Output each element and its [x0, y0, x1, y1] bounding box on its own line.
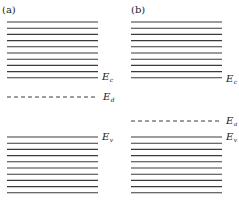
- panel-b-ec-label: Ec: [225, 73, 238, 85]
- panel-a-valence-band: [7, 137, 98, 193]
- panel-a-conduction-band: [7, 22, 98, 78]
- panel-a-ed-label: Ed: [102, 91, 115, 103]
- panel-a-donor: (a) Ec Ed Ev: [2, 4, 115, 193]
- panel-b-label: (b): [131, 4, 145, 15]
- panel-b-valence-band: [131, 137, 222, 193]
- panel-b-conduction-band: [131, 22, 222, 78]
- panel-a-ev-label: Ev: [101, 131, 114, 143]
- panel-b-ev-label: Ev: [225, 131, 238, 143]
- panel-a-ec-label: Ec: [101, 71, 114, 83]
- panel-a-label: (a): [2, 4, 16, 15]
- panel-b-ea-label: Ea: [225, 115, 238, 127]
- panel-b-acceptor: (b) Ec Ea Ev: [131, 4, 238, 193]
- band-diagram: (a) Ec Ed Ev (b) Ec Ea Ev: [0, 0, 239, 206]
